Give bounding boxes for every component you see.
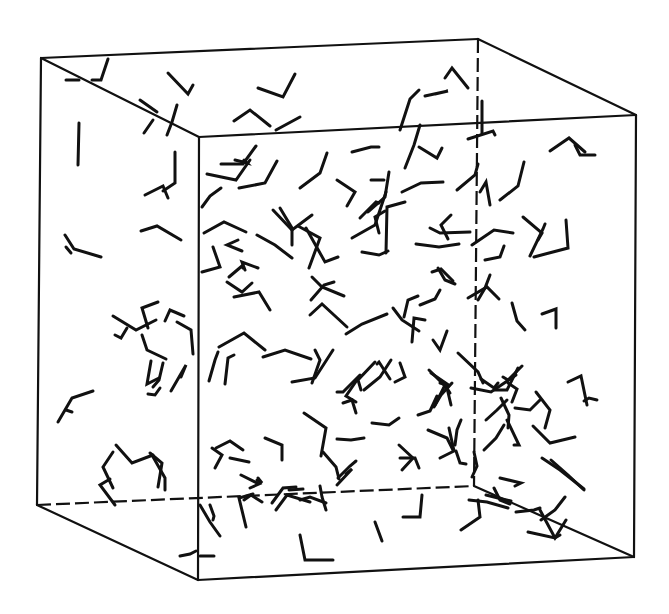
bent-molecule <box>202 188 221 207</box>
cube-hidden-edge <box>474 39 478 486</box>
cube-edge <box>634 115 636 557</box>
bent-molecule <box>241 475 259 488</box>
bent-molecule <box>431 373 450 386</box>
bent-molecule <box>140 100 157 112</box>
cube-edge <box>41 58 199 137</box>
bent-molecule <box>472 230 513 245</box>
bent-molecule <box>180 551 196 556</box>
bent-molecule <box>234 292 270 310</box>
bent-molecule <box>425 91 448 96</box>
bent-molecule <box>202 247 220 272</box>
bent-molecule <box>66 410 72 412</box>
bent-molecule <box>289 489 303 490</box>
bent-molecule <box>116 445 153 463</box>
bent-molecule <box>352 147 379 152</box>
bent-molecule <box>141 226 181 240</box>
bent-molecule <box>323 452 339 479</box>
bent-molecule <box>300 535 333 560</box>
cube-edge <box>198 137 199 580</box>
bent-molecule <box>300 153 327 188</box>
bent-molecule <box>227 240 242 251</box>
bent-molecule <box>200 505 220 536</box>
bent-molecule <box>265 438 282 460</box>
bent-molecule <box>486 400 507 420</box>
bent-molecule <box>115 328 127 338</box>
bent-molecule <box>257 235 292 258</box>
bent-molecule <box>209 352 218 381</box>
bent-molecule <box>343 400 356 413</box>
bent-molecule <box>441 215 451 239</box>
bent-molecule <box>420 290 440 305</box>
bent-molecule <box>204 222 246 233</box>
bent-molecule <box>230 458 249 462</box>
bent-molecule <box>142 335 166 359</box>
bent-molecule <box>258 74 295 97</box>
cube-hidden-edges <box>37 39 478 505</box>
bent-molecule <box>234 110 270 126</box>
bent-molecule <box>515 400 540 410</box>
bent-molecule <box>177 322 193 354</box>
cube-edge <box>37 505 198 580</box>
cube-visible-edges <box>37 39 636 580</box>
bent-molecule <box>216 441 243 450</box>
bent-molecule <box>304 413 326 456</box>
bent-molecule <box>145 186 168 198</box>
bent-molecule <box>212 448 222 468</box>
bent-molecule <box>337 375 360 392</box>
bent-molecule <box>533 426 575 443</box>
bent-molecule <box>113 316 156 330</box>
bent-molecule <box>402 182 443 192</box>
bent-molecule <box>440 428 454 458</box>
bent-molecule <box>418 396 437 415</box>
cube-edge <box>37 58 41 505</box>
bent-molecule <box>229 266 243 277</box>
bent-molecule <box>500 478 521 486</box>
bent-molecule <box>480 182 490 205</box>
bent-molecule <box>458 353 483 383</box>
molecular-cube-diagram <box>0 0 669 614</box>
bent-molecule <box>584 398 597 401</box>
bent-molecule <box>78 123 79 165</box>
bent-molecule <box>346 314 387 334</box>
bent-molecule <box>58 391 93 422</box>
bent-molecule <box>227 282 252 292</box>
bent-molecule <box>457 164 478 190</box>
bent-molecule <box>144 120 153 133</box>
bent-molecule <box>163 152 175 191</box>
bent-molecule <box>484 425 504 450</box>
bent-molecule <box>153 363 163 387</box>
bent-molecule <box>168 73 193 94</box>
bent-molecule <box>416 244 459 247</box>
bent-molecule <box>167 105 177 135</box>
bent-molecule <box>171 365 186 391</box>
bent-molecule <box>395 363 405 382</box>
bent-molecule <box>362 251 388 255</box>
bent-molecule <box>419 147 442 158</box>
bent-molecule <box>433 331 447 350</box>
cube-edge <box>198 557 634 580</box>
cube-edge <box>41 39 478 58</box>
bent-molecule <box>92 59 108 80</box>
bent-molecule <box>536 392 550 428</box>
bent-molecule <box>456 451 466 464</box>
bent-molecule <box>276 117 300 130</box>
bent-molecule <box>225 355 234 384</box>
bent-molecule <box>263 350 311 359</box>
bent-molecule <box>337 180 355 206</box>
cube-edge <box>474 486 634 557</box>
bent-molecule <box>455 420 461 445</box>
bent-molecule <box>375 211 385 233</box>
bent-molecule <box>358 362 375 390</box>
bent-molecule <box>337 438 364 440</box>
bent-molecule <box>542 458 584 489</box>
bent-molecule <box>461 500 480 530</box>
bent-molecule <box>66 247 71 253</box>
bent-molecule <box>404 296 418 317</box>
bent-molecule <box>386 202 405 253</box>
bent-molecule <box>372 418 399 425</box>
bent-molecule <box>310 304 347 327</box>
molecules-group <box>58 59 597 560</box>
bent-molecule <box>445 68 468 88</box>
bent-molecule <box>400 90 419 130</box>
bent-molecule <box>550 138 585 152</box>
